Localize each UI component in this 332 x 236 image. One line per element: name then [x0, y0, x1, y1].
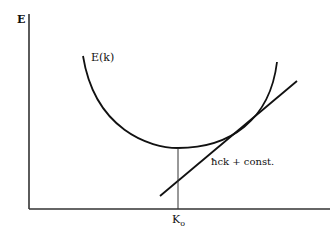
energy-curve: [83, 56, 277, 148]
tangent-line: [160, 81, 297, 196]
curve-label: E(k): [91, 52, 114, 63]
k0-tick-label: Ko: [172, 214, 185, 225]
k-symbol: K: [172, 213, 180, 226]
diagram-canvas: [0, 0, 332, 236]
k-subscript: o: [180, 219, 185, 228]
tangent-label: ħck + const.: [211, 157, 274, 167]
y-axis-label: E: [17, 14, 25, 25]
